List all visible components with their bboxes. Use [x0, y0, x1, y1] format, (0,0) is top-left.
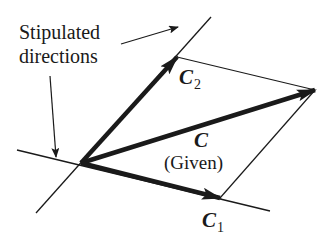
annotation-line-1: Stipulated — [19, 21, 100, 44]
leader-arrow-to-line-2 — [121, 27, 178, 44]
vector-c1-symbol: C — [202, 208, 217, 232]
vector-c1-subscript: 1 — [217, 220, 224, 235]
vector-c-note: (Given) — [164, 152, 223, 174]
vector-c2-symbol: C — [179, 65, 194, 89]
vector-c2-subscript: 2 — [194, 77, 201, 92]
leader-arrow-to-line-1 — [50, 76, 56, 157]
annotation-line-2: directions — [19, 45, 98, 67]
vector-decomposition-diagram: Stipulated directions C 2 C (Given) C 1 — [0, 0, 329, 241]
vector-c-symbol: C — [194, 128, 209, 152]
